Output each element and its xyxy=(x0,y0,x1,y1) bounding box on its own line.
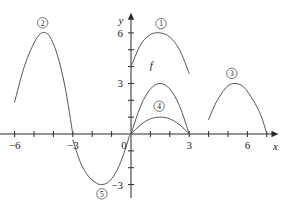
curve-5-badge: 5 xyxy=(97,189,107,199)
curve-3-badge: 3 xyxy=(227,68,237,78)
x-tick-label: −6 xyxy=(9,139,21,151)
curve-4-badge: 4 xyxy=(154,101,164,111)
badge-number: 3 xyxy=(230,69,234,78)
x-axis-arrow xyxy=(271,131,278,137)
badge-number: 1 xyxy=(159,19,163,28)
curve-4 xyxy=(131,117,189,134)
y-tick-label: −3 xyxy=(111,179,123,191)
curve-label-f: f xyxy=(150,59,155,71)
function-graph-figure: −6−33663−30xyf12345 xyxy=(0,0,306,200)
axes-group xyxy=(0,13,278,198)
curve-3 xyxy=(209,83,267,134)
x-tick-label: 3 xyxy=(186,139,192,151)
y-tick-label: 6 xyxy=(118,27,124,39)
badge-number: 5 xyxy=(100,190,104,199)
y-tick-label: 3 xyxy=(118,77,124,89)
badge-number: 4 xyxy=(157,102,161,111)
x-axis-label: x xyxy=(272,140,278,152)
badge-number: 2 xyxy=(41,19,45,28)
curve-1-badge: 1 xyxy=(156,18,166,28)
origin-label: 0 xyxy=(121,139,127,151)
x-tick-label: 6 xyxy=(245,139,251,151)
x-tick-label: −3 xyxy=(67,139,79,151)
y-axis-label: y xyxy=(118,14,124,26)
y-axis-arrow xyxy=(128,13,134,20)
curves-group xyxy=(15,32,267,184)
curve-2 xyxy=(15,32,73,134)
graph-canvas: −6−33663−30xyf12345 xyxy=(0,0,306,200)
curve-1 xyxy=(131,33,189,74)
curve-2-badge: 2 xyxy=(38,18,48,28)
